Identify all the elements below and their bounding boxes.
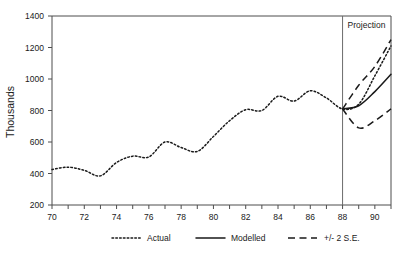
y-tick-label: 1000 bbox=[25, 74, 44, 84]
x-tick-label: 72 bbox=[80, 212, 90, 222]
y-tick-label: 800 bbox=[30, 106, 44, 116]
y-tick-label: 200 bbox=[30, 200, 44, 210]
line-chart: Thousands 200400600800100012001400 70727… bbox=[0, 0, 404, 253]
projection-label: Projection bbox=[348, 20, 386, 30]
x-tick-label: 80 bbox=[209, 212, 219, 222]
x-tick-label: 74 bbox=[112, 212, 122, 222]
x-tick-label: 84 bbox=[273, 212, 283, 222]
y-tick-label: 1200 bbox=[25, 43, 44, 53]
x-tick-label: 70 bbox=[47, 212, 57, 222]
x-tick-label: 90 bbox=[370, 212, 380, 222]
y-tick-label: 400 bbox=[30, 169, 44, 179]
legend-label-modelled: Modelled bbox=[231, 233, 266, 243]
series-se-lower-line bbox=[343, 109, 391, 128]
y-axis-ticks: 200400600800100012001400 bbox=[25, 11, 52, 210]
x-tick-label: 82 bbox=[241, 212, 251, 222]
x-axis-ticks: 7072747678808284868890 bbox=[47, 205, 391, 222]
legend-label-actual: Actual bbox=[147, 233, 171, 243]
y-axis-label-text: Thousands bbox=[4, 86, 16, 138]
legend-label-se: +/- 2 S.E. bbox=[324, 233, 360, 243]
chart-legend: Actual Modelled +/- 2 S.E. bbox=[112, 233, 360, 243]
y-tick-label: 1400 bbox=[25, 11, 44, 21]
x-tick-label: 76 bbox=[144, 212, 154, 222]
x-tick-label: 88 bbox=[338, 212, 348, 222]
x-tick-label: 78 bbox=[176, 212, 186, 222]
x-tick-label: 86 bbox=[306, 212, 316, 222]
y-tick-label: 600 bbox=[30, 137, 44, 147]
chart-container: Thousands 200400600800100012001400 70727… bbox=[0, 0, 404, 253]
y-axis-label: Thousands bbox=[4, 86, 16, 138]
series-actual-line bbox=[52, 46, 391, 176]
